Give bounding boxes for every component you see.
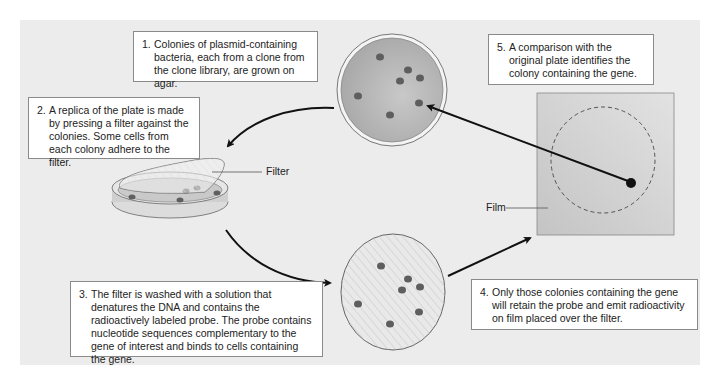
filter-label: Filter bbox=[266, 165, 289, 177]
step-4-caption: 4.Only those colonies containing the gen… bbox=[471, 279, 698, 330]
arrow-dish-to-filter bbox=[226, 230, 330, 283]
step-3-caption: 3.The filter is washed with a solution t… bbox=[70, 281, 323, 357]
step-2-caption: 2.A replica of the plate is made by pres… bbox=[28, 97, 200, 159]
step-5-caption: 5.A comparison with the original plate i… bbox=[488, 34, 654, 85]
agar-plate bbox=[337, 34, 447, 146]
step-1-caption: 1.Colonies of plasmid-containing bacteri… bbox=[133, 31, 318, 82]
arrow-filter-to-film bbox=[448, 238, 530, 276]
radioactive-spot bbox=[626, 178, 636, 188]
film-label: Film bbox=[486, 201, 506, 213]
arrow-plate-to-dish bbox=[228, 108, 334, 146]
film bbox=[506, 93, 674, 235]
probed-filter bbox=[341, 234, 445, 350]
